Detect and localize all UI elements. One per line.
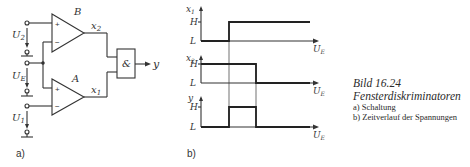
axis-arrow-icon	[199, 55, 203, 60]
axis-arrow-icon	[199, 6, 203, 11]
axis-arrow-icon	[313, 81, 319, 86]
trace-y	[201, 107, 310, 127]
figure-number: Bild 16.24	[353, 77, 461, 90]
trace-x2	[201, 64, 310, 83]
x2-label: x2	[91, 20, 102, 33]
arrow-icon	[25, 43, 29, 48]
trace-x1-axis-label: x1	[186, 4, 195, 15]
high-level-label: H	[189, 102, 198, 112]
plus-sign: +	[55, 20, 60, 29]
arrow-icon	[145, 62, 151, 67]
axis-arrow-icon	[313, 125, 319, 130]
figure-caption: Bild 16.24 Fensterdiskriminatoren a) Sch…	[353, 77, 461, 123]
low-level-label: L	[189, 122, 196, 132]
comparator-a-label: A	[71, 73, 79, 84]
comparator-b-label: B	[73, 6, 81, 17]
u2-label: U2	[12, 29, 25, 42]
panel-b-label: b)	[187, 148, 196, 159]
axis-arrow-icon	[313, 39, 319, 44]
and-gate-symbol: &	[122, 58, 131, 69]
axis-arrow-icon	[199, 96, 203, 101]
x-axis-label: UE	[313, 86, 326, 97]
y-output-label: y	[152, 58, 160, 71]
arrow-icon	[25, 124, 29, 129]
caption-item-b: b) Zeitverlauf der Spannungen	[353, 113, 461, 123]
trace-x1	[201, 22, 310, 41]
x-axis-label: UE	[313, 44, 326, 55]
low-level-label: L	[189, 36, 196, 46]
x-axis-label: UE	[313, 130, 326, 141]
arrow-icon	[25, 83, 29, 88]
panel-a-label: a)	[16, 148, 25, 159]
plus-sign: +	[55, 85, 60, 94]
high-level-label: H	[189, 17, 198, 27]
ue-label: UE	[12, 70, 26, 83]
high-level-label: H	[189, 59, 198, 69]
minus-sign: −	[55, 102, 60, 111]
low-level-label: L	[189, 78, 196, 88]
u1-label: U1	[12, 112, 25, 125]
x1-label: x1	[91, 84, 101, 97]
minus-sign: −	[55, 38, 60, 47]
